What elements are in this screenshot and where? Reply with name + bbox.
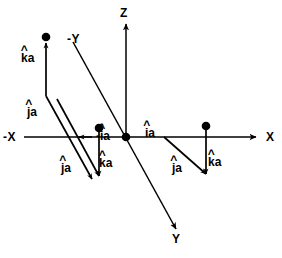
hat-accent-icon: ^ [99, 149, 106, 161]
axes-group [24, 24, 256, 229]
triad-right [164, 128, 206, 174]
label-hat-stack: ^k [208, 156, 215, 168]
vector-diagram-figure: X -X Z Y -Y ^ka ^ja ^ja ^ka -^ia ^ia ^ja… [0, 0, 282, 258]
label-hat-stack: ^j [27, 106, 30, 118]
label-hat-stack: ^k [99, 157, 106, 169]
hat-accent-icon: ^ [143, 119, 150, 131]
hat-accent-icon: ^ [208, 148, 215, 160]
hat-accent-icon: ^ [21, 44, 28, 56]
label-hat-stack: ^j [61, 162, 64, 174]
label-suffix: a [28, 52, 35, 64]
label-hat-stack: ^i [145, 127, 148, 139]
hat-accent-icon: ^ [98, 122, 105, 134]
vector-label-j-hat-a-left-upper: ^ja [27, 106, 37, 118]
axis-label-x: X [266, 131, 275, 143]
origin-dot [122, 133, 131, 142]
diagram-canvas [0, 0, 282, 258]
vector-tip-dot-left-outer [42, 33, 51, 42]
label-suffix: a [106, 157, 113, 169]
label-suffix: a [215, 156, 222, 168]
vector-label-j-hat-a-left-lower: ^ja [61, 162, 71, 174]
vector-label-negative-i-hat-a: -^ia [96, 130, 110, 142]
axis-label-y: Y [172, 233, 181, 245]
vector-label-i-hat-a: ^ia [145, 127, 155, 139]
label-hat-stack: ^j [172, 162, 175, 174]
vector-label-k-hat-a-right: ^ka [208, 156, 221, 168]
axis-label-negative-y: -Y [67, 33, 80, 45]
vector-tip-dot-right [202, 122, 211, 131]
label-hat-stack: ^k [21, 52, 28, 64]
hat-accent-icon: ^ [170, 154, 177, 166]
vector-label-k-hat-a-left-lower: ^ka [99, 157, 112, 169]
label-hat-stack: ^i [100, 130, 103, 142]
vector-label-j-hat-a-right: ^ja [172, 162, 182, 174]
axis-label-negative-x: -X [3, 131, 16, 143]
hat-accent-icon: ^ [25, 98, 32, 110]
hat-accent-icon: ^ [59, 154, 66, 166]
axis-label-z: Z [120, 7, 128, 19]
vector-label-k-hat-a-left-upper: ^ka [21, 52, 34, 64]
